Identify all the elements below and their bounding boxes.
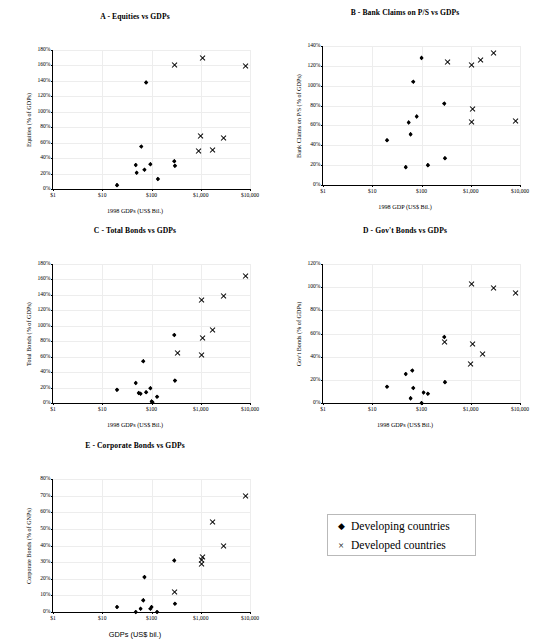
- y-tick-label: 180%: [37, 261, 50, 267]
- x-tick-label: $100: [146, 407, 157, 413]
- chart-title-c: C - Total Bonds vs GDPs: [4, 226, 266, 235]
- y-tick-mark: [321, 310, 323, 311]
- data-point-diamond: [142, 167, 147, 172]
- data-point-diamond: [173, 164, 178, 169]
- x-tick-label: $1,000: [463, 189, 478, 195]
- chart-panel-d: D - Gov't Bonds vs GDPs0%20%40%60%80%100…: [274, 226, 536, 431]
- y-tick-label: 140%: [37, 292, 50, 298]
- data-point-x: [512, 118, 519, 125]
- y-tick-label: 80%: [310, 103, 320, 109]
- x-tick-label: $10: [98, 616, 106, 622]
- y-tick-label: 80%: [40, 476, 50, 482]
- x-tick-label: $100: [416, 407, 427, 413]
- x-tick-label: $100: [146, 193, 157, 199]
- chart-panel-e: E - Corporate Bonds vs GDPs0%10%20%30%40…: [4, 441, 266, 639]
- y-axis-label-e: Corporate Bonds (% of GNPs): [25, 479, 32, 613]
- y-tick-mark: [51, 546, 53, 547]
- y-tick-mark: [51, 279, 53, 280]
- data-point-diamond: [138, 606, 143, 611]
- gridline-vertical: [102, 479, 103, 612]
- x-tick-label: $1,000: [463, 407, 478, 413]
- data-point-diamond: [408, 132, 413, 137]
- figure-legend: ◆Developing countries×Developed countrie…: [327, 514, 476, 556]
- y-tick-label: 120%: [37, 308, 50, 314]
- y-tick-mark: [51, 264, 53, 265]
- plot-area-d: 0%20%40%60%80%100%120%$1$10$100$1,000$10…: [322, 264, 520, 404]
- y-tick-mark: [51, 388, 53, 389]
- data-point-diamond: [172, 159, 177, 164]
- gridline-vertical: [152, 479, 153, 612]
- data-point-x: [209, 147, 216, 154]
- legend-label: Developing countries: [351, 520, 450, 532]
- x-tick-label: $10: [368, 407, 376, 413]
- data-point-x: [198, 352, 205, 359]
- y-tick-label: 100%: [307, 83, 320, 89]
- gridline-vertical: [520, 46, 521, 185]
- data-point-x: [469, 340, 476, 347]
- y-tick-mark: [51, 357, 53, 358]
- gridline-vertical: [520, 264, 521, 403]
- x-axis-label-c: 1998 GDPs (US$ Bil.): [4, 421, 266, 428]
- y-axis-label-a: Equities (% of GDPs): [25, 50, 32, 190]
- y-tick-mark: [51, 341, 53, 342]
- x-axis-label-b: 1998 GDP (US$ Bil.): [274, 203, 536, 210]
- y-tick-label: 100%: [37, 109, 50, 115]
- gridline-vertical: [372, 264, 373, 403]
- data-point-x: [469, 105, 476, 112]
- y-tick-mark: [51, 174, 53, 175]
- data-point-diamond: [172, 333, 177, 338]
- data-point-diamond: [141, 598, 146, 603]
- y-axis-label-b: Bank Claims on P/S (% of GDPs): [295, 46, 302, 186]
- y-tick-label: 40%: [40, 155, 50, 161]
- data-point-diamond: [134, 381, 139, 386]
- data-point-diamond: [426, 391, 431, 396]
- y-tick-mark: [51, 512, 53, 513]
- gridline-vertical: [201, 479, 202, 612]
- y-tick-mark: [51, 496, 53, 497]
- data-point-diamond: [419, 56, 424, 61]
- chart-title-a: A - Equities vs GDPs: [4, 12, 266, 21]
- y-tick-mark: [321, 125, 323, 126]
- data-point-diamond: [443, 156, 448, 161]
- y-tick-label: 60%: [40, 509, 50, 515]
- data-point-x: [198, 296, 205, 303]
- x-tick-label: $1: [50, 407, 56, 413]
- data-point-diamond: [134, 163, 139, 168]
- y-tick-mark: [51, 81, 53, 82]
- y-tick-mark: [51, 310, 53, 311]
- x-tick-label: $1: [50, 616, 56, 622]
- x-axis-label-e: GDPs (US$ bil.): [4, 630, 266, 639]
- chart-panel-a: A - Equities vs GDPs0%20%40%60%80%100%12…: [4, 12, 266, 217]
- y-tick-label: 60%: [310, 123, 320, 129]
- x-tick-label: $10: [368, 189, 376, 195]
- data-point-x: [220, 542, 227, 549]
- data-point-x: [512, 289, 519, 296]
- y-tick-mark: [51, 143, 53, 144]
- y-tick-label: 140%: [307, 43, 320, 49]
- gridline-vertical: [250, 50, 251, 189]
- y-tick-mark: [51, 579, 53, 580]
- chart-panel-b: B - Bank Claims on P/S vs GDPs0%20%40%60…: [274, 8, 536, 213]
- y-tick-mark: [321, 334, 323, 335]
- gridline-vertical: [201, 50, 202, 189]
- data-point-diamond: [134, 610, 139, 615]
- data-point-x: [174, 349, 181, 356]
- x-tick-label: $1: [320, 407, 326, 413]
- data-point-x: [242, 273, 249, 280]
- data-point-diamond: [411, 386, 416, 391]
- y-tick-label: 40%: [310, 354, 320, 360]
- legend-entry-developing: ◆Developing countries: [334, 520, 450, 532]
- y-tick-label: 40%: [310, 142, 320, 148]
- y-tick-label: 100%: [307, 284, 320, 290]
- gridline-vertical: [152, 50, 153, 189]
- data-point-diamond: [141, 359, 146, 364]
- y-tick-mark: [51, 595, 53, 596]
- gridline-vertical: [422, 46, 423, 185]
- data-point-x: [197, 133, 204, 140]
- y-tick-label: 20%: [310, 377, 320, 383]
- plot-area-b: 0%20%40%60%80%100%120%140%$1$10$100$1,00…: [322, 46, 520, 186]
- y-tick-mark: [321, 165, 323, 166]
- data-point-x: [209, 326, 216, 333]
- data-point-x: [479, 351, 486, 358]
- y-tick-label: 10%: [40, 593, 50, 599]
